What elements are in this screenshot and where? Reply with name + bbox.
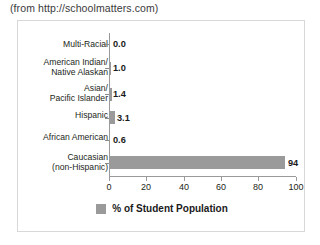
bar [109, 62, 111, 75]
x-axis-tick-label: 60 [216, 182, 226, 192]
table-row: Caucasian (non-Hispanic) 94 [18, 151, 306, 176]
x-axis-tick-label: 0 [106, 182, 111, 192]
bar-value-label: 1.4 [113, 89, 126, 99]
x-axis-tick [184, 177, 185, 181]
x-axis-line [109, 176, 296, 177]
table-row: Multi-Racial 0.0 [18, 33, 306, 55]
x-axis-tick-label: 100 [288, 182, 303, 192]
bar-value-label: 94 [288, 158, 298, 168]
x-axis-tick-label: 40 [179, 182, 189, 192]
plot-area: Multi-Racial 0.0 American Indian/ Native… [18, 21, 306, 233]
category-label: Asian/ Pacific Islander [0, 83, 108, 104]
category-label: Hispanic [0, 110, 108, 120]
category-label: African American [0, 132, 108, 142]
category-label: American Indian/ Native Alaskan [0, 57, 108, 78]
bar [109, 111, 115, 124]
bar-rows: Multi-Racial 0.0 American Indian/ Native… [18, 33, 306, 168]
bar [109, 88, 112, 101]
x-axis-tick [109, 177, 110, 181]
bar [109, 156, 285, 169]
bar-value-label: 3.1 [117, 113, 130, 123]
x-axis-tick [258, 177, 259, 181]
chart-legend: % of Student Population [18, 203, 306, 214]
table-row: American Indian/ Native Alaskan 1.0 [18, 55, 306, 81]
category-label: Multi-Racial [0, 39, 108, 49]
legend-label: % of Student Population [112, 203, 228, 214]
x-axis-tick-label: 80 [253, 182, 263, 192]
source-caption: (from http://schoolmatters.com) [10, 2, 158, 14]
x-axis-tick [296, 177, 297, 181]
legend-swatch-icon [96, 204, 106, 214]
bar-value-label: 0.6 [113, 135, 126, 145]
category-tick [105, 44, 109, 45]
x-axis-tick-label: 20 [141, 182, 151, 192]
bar-value-label: 1.0 [113, 63, 126, 73]
table-row: Asian/ Pacific Islander 1.4 [18, 81, 306, 107]
table-row: African American 0.6 [18, 129, 306, 151]
bar-value-label: 0.0 [113, 39, 126, 49]
x-axis-tick [221, 177, 222, 181]
x-axis-tick [146, 177, 147, 181]
bar [109, 133, 110, 146]
chart-frame: Multi-Racial 0.0 American Indian/ Native… [17, 20, 305, 232]
table-row: Hispanic 3.1 [18, 107, 306, 129]
category-label: Caucasian (non-Hispanic) [0, 152, 108, 173]
